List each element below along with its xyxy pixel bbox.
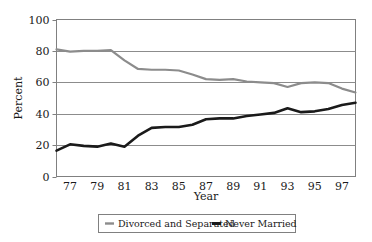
y-tick-label-40: 40 [36, 108, 50, 121]
x-tick-label-85: 85 [172, 180, 186, 193]
x-tick-label-97: 97 [335, 180, 349, 193]
chart-page: 020406080100 7779818385878991939597 Perc… [0, 0, 372, 242]
y-tick-label-20: 20 [36, 139, 50, 152]
x-tick-label-77: 77 [63, 180, 77, 193]
x-tick-label-83: 83 [145, 180, 159, 193]
y-axis-title: Percent [12, 76, 25, 119]
y-tick-label-60: 60 [36, 76, 50, 89]
x-axis-title: Year [193, 190, 219, 203]
y-tick-label-80: 80 [36, 45, 50, 58]
y-tick-label-0: 0 [43, 171, 50, 184]
x-tick-label-95: 95 [308, 180, 322, 193]
legend-item-label-never-married: Never Married [225, 218, 297, 229]
x-tick-label-89: 89 [226, 180, 240, 193]
line-chart: 020406080100 7779818385878991939597 Perc… [0, 0, 372, 242]
x-tick-label-91: 91 [253, 180, 267, 193]
y-tick-label-100: 100 [29, 14, 50, 27]
x-tick-label-79: 79 [90, 180, 104, 193]
chart-background [0, 0, 372, 242]
x-tick-label-93: 93 [281, 180, 295, 193]
x-tick-label-81: 81 [117, 180, 131, 193]
